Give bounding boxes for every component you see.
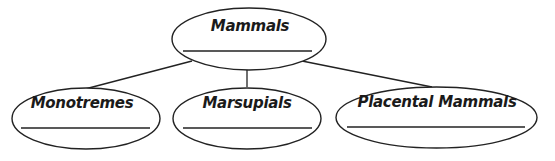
node-placental-label: Placental Mammals (357, 93, 516, 111)
concept-map: Mammals Monotremes Marsupials Placental … (0, 0, 555, 161)
node-mammals-label: Mammals (211, 17, 289, 35)
node-marsupials-label: Marsupials (202, 94, 291, 112)
node-monotremes-label: Monotremes (31, 94, 134, 112)
connector-mammals-monotremes (85, 61, 192, 89)
connector-mammals-placental (302, 61, 432, 87)
